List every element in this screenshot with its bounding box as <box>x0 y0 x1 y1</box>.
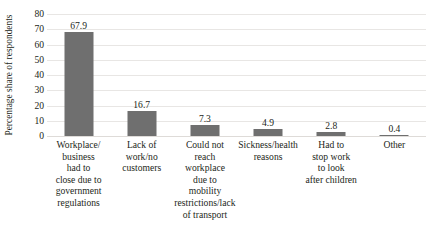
x-axis-label-line: close due to <box>47 174 110 186</box>
x-axis-label-line: government <box>47 185 110 197</box>
x-axis-label-line: regulations <box>47 197 110 209</box>
x-axis-label-line: had to <box>47 162 110 174</box>
y-axis-tick-60: 60 <box>18 40 44 50</box>
x-axis-label: Workplace/businesshad toclose due togove… <box>47 139 110 209</box>
bar-slot: 7.3 <box>173 14 236 136</box>
bar-slot: 4.9 <box>237 14 300 136</box>
bar[interactable] <box>64 32 93 136</box>
bar-value-label: 67.9 <box>49 20 109 31</box>
bar-value-label: 16.7 <box>112 99 172 110</box>
y-axis-tick-labels: 80706050403020100 <box>18 0 44 247</box>
x-axis-label-line: after children <box>300 174 363 186</box>
x-axis-label: Sickness/healthreasons <box>237 139 300 162</box>
x-axis-label-line: Had to <box>300 139 363 151</box>
plot-area: 67.916.77.34.92.80.4 <box>47 14 426 136</box>
x-axis-category-labels: Workplace/businesshad toclose due togove… <box>47 139 426 247</box>
y-axis-tick-40: 40 <box>18 70 44 80</box>
bar-slot: 67.9 <box>47 14 110 136</box>
x-axis-label: Could notreachworkplacedue tomobilityres… <box>162 139 248 220</box>
bar-value-label: 7.3 <box>175 113 235 124</box>
bars: 67.916.77.34.92.80.4 <box>47 14 426 136</box>
x-axis-label-line: Could not <box>162 139 248 151</box>
y-axis-tick-0: 0 <box>18 131 44 141</box>
bar[interactable] <box>317 132 346 136</box>
x-axis-label-line: business <box>47 151 110 163</box>
axis-baseline <box>47 136 426 137</box>
bar-value-label: 2.8 <box>301 120 361 131</box>
y-axis-tick-10: 10 <box>18 116 44 126</box>
y-axis-tick-20: 20 <box>18 101 44 111</box>
y-axis-tick-30: 30 <box>18 85 44 95</box>
x-axis-label-line: Sickness/health <box>237 139 300 151</box>
bar-value-label: 4.9 <box>238 117 298 128</box>
x-axis-label-line: Other <box>363 139 426 151</box>
y-axis-tick-80: 80 <box>18 9 44 19</box>
bar-slot: 2.8 <box>300 14 363 136</box>
y-axis-tick-50: 50 <box>18 55 44 65</box>
x-axis-label: Had tostop workto lookafter children <box>300 139 363 185</box>
x-axis-label-line: reasons <box>237 151 300 163</box>
bar[interactable] <box>380 135 409 136</box>
y-axis-tick-70: 70 <box>18 24 44 34</box>
x-axis-label-line: restrictions/lack <box>162 197 248 209</box>
bar-value-label: 0.4 <box>364 123 424 134</box>
x-axis-label-line: due to <box>162 174 248 186</box>
bar-slot: 16.7 <box>110 14 173 136</box>
x-axis-label-line: of transport <box>162 209 248 221</box>
x-axis-label-line: reach <box>162 151 248 163</box>
x-axis-label-line: Workplace/ <box>47 139 110 151</box>
bar[interactable] <box>190 125 219 136</box>
x-axis-label-line: stop work <box>300 151 363 163</box>
x-axis-label-line: to look <box>300 162 363 174</box>
bar[interactable] <box>254 129 283 136</box>
bar[interactable] <box>127 111 156 136</box>
x-axis-label-line: mobility <box>162 185 248 197</box>
bar-slot: 0.4 <box>363 14 426 136</box>
x-axis-label-line: workplace <box>162 162 248 174</box>
bar-chart: Percentage share of respondents 80706050… <box>0 0 438 247</box>
y-axis-title: Percentage share of respondents <box>2 4 16 146</box>
x-axis-label: Other <box>363 139 426 151</box>
